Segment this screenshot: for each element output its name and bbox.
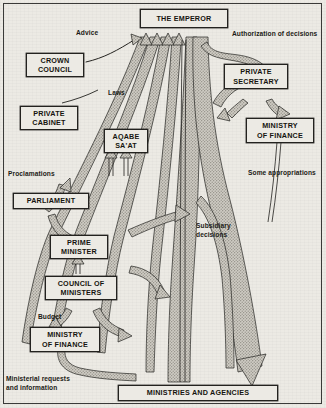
annotation-proclamations: Proclamations	[8, 170, 55, 179]
annotation-advice: Advice	[76, 29, 98, 38]
node-aqabe-saat[interactable]: AQABE SA'AT	[104, 129, 148, 153]
node-label: PRIME	[67, 238, 91, 247]
annotation-ministerial-requests: Ministerial requests and information	[6, 375, 70, 392]
annotation-laws: Laws	[108, 89, 125, 98]
node-label: AQABE	[113, 132, 140, 141]
node-parliament[interactable]: PARLIAMENT	[13, 193, 89, 209]
node-label: MINISTRY	[262, 121, 298, 130]
node-label: OF FINANCE	[257, 131, 303, 140]
annotation-some-appropriations: Some appropriations	[248, 169, 316, 178]
annotation-authorization-of-decisions: Authorization of decisions	[232, 30, 317, 39]
node-ministry-of-finance-lower[interactable]: MINISTRY OF FINANCE	[30, 327, 100, 352]
annotation-line: Ministerial requests	[6, 375, 70, 382]
node-private-secretary[interactable]: PRIVATE SECRETARY	[224, 64, 288, 89]
annotation-budget: Budget	[38, 313, 61, 322]
node-ministries-and-agencies[interactable]: MINISTRIES AND AGENCIES	[118, 385, 278, 401]
annotation-line: and information	[6, 384, 57, 391]
node-label: MINISTERS	[61, 288, 102, 297]
node-label: COUNCIL OF	[58, 279, 105, 288]
annotation-line: Authorization of decisions	[232, 30, 317, 37]
node-label: PRIVATE	[33, 109, 64, 118]
diagram-page: THE EMPEROR CROWN COUNCIL PRIVATE CABINE…	[0, 0, 326, 408]
node-label: CROWN	[41, 56, 70, 65]
node-label: PRIVATE	[240, 67, 271, 76]
node-label: SECRETARY	[233, 77, 278, 86]
node-label: MINISTRY	[47, 330, 83, 339]
node-private-cabinet[interactable]: PRIVATE CABINET	[20, 106, 78, 130]
node-label: CABINET	[32, 118, 65, 127]
node-label: MINISTER	[61, 247, 97, 256]
node-emperor[interactable]: THE EMPEROR	[140, 9, 228, 28]
node-label: THE EMPEROR	[157, 14, 212, 23]
annotation-line: Some appropriations	[248, 169, 316, 176]
annotation-subsidiary-decisions: Subsidiary decisions	[196, 222, 231, 239]
node-label: MINISTRIES AND AGENCIES	[147, 388, 249, 397]
annotation-line: Subsidiary	[196, 222, 231, 229]
node-label: SA'AT	[115, 141, 137, 150]
annotation-line: decisions	[196, 231, 227, 238]
node-council-of-ministers[interactable]: COUNCIL OF MINISTERS	[45, 276, 117, 300]
node-ministry-of-finance-upper[interactable]: MINISTRY OF FINANCE	[246, 118, 314, 143]
node-label: OF FINANCE	[42, 340, 88, 349]
node-prime-minister[interactable]: PRIME MINISTER	[50, 235, 108, 259]
annotation-line: Advice	[76, 29, 98, 36]
node-label: COUNCIL	[38, 65, 72, 74]
annotation-line: Laws	[108, 89, 125, 96]
annotation-line: Proclamations	[8, 170, 55, 177]
annotation-line: Budget	[38, 313, 61, 320]
node-label: PARLIAMENT	[27, 196, 76, 205]
node-crown-council[interactable]: CROWN COUNCIL	[26, 53, 84, 77]
